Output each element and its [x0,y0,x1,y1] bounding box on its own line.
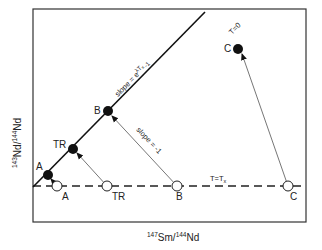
y-axis-label: 143Nd/144Nd [11,118,23,168]
isochron-diagram: A TR B C A TR B C T=0 slope = eλTx-1 slo… [0,0,322,250]
evolution-arrow-tr [77,153,107,186]
present-point-c [233,44,243,54]
t-x-label: T=Tx [210,174,227,184]
x-sup-1: 147 [147,231,158,238]
present-label-c: C [224,43,231,54]
past-point-c [283,181,293,191]
present-isochron-line [33,12,205,187]
past-label-c: C [290,191,297,202]
t-x-text: T=T [210,174,224,183]
past-point-a [52,181,62,191]
arrow-slope-label: slope = -1 [135,125,164,155]
past-point-tr [102,181,112,191]
y-sup-2: 144 [11,130,18,141]
plot-frame [33,9,306,222]
x-axis-label: 147Sm/144Nd [147,231,199,243]
t-zero-label: T=0 [227,21,243,37]
past-label-tr: TR [112,191,125,202]
evolution-arrow-c [242,54,288,186]
present-label-tr: TR [53,139,66,150]
present-point-tr [68,144,78,154]
x-sup-2: 144 [176,231,187,238]
present-label-b: B [94,105,101,116]
past-label-a: A [62,191,69,202]
x-base-2: Nd [187,232,200,243]
present-slope-label: slope = eλTx-1 [112,58,152,98]
present-point-a [43,170,53,180]
present-label-a: A [36,161,43,172]
t-x-subscript: x [224,178,227,184]
slope-text: slope = e [113,70,141,98]
evolution-arrow-b [112,116,177,186]
y-base-1: Nd/ [12,141,23,157]
y-sup-1: 143 [11,157,18,168]
present-point-b [103,106,113,116]
past-label-b: B [176,191,183,202]
past-point-b [172,181,182,191]
y-base-2: Nd [12,118,23,131]
x-base-1: Sm/ [158,232,176,243]
